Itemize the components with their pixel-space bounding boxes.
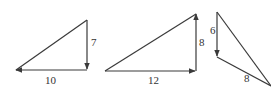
label-12: 12: [148, 74, 159, 86]
label-10: 10: [45, 74, 57, 86]
triangle-1: 7 10: [16, 20, 97, 86]
vector-triangles-diagram: 7 10 8 12 6 8: [0, 0, 271, 97]
hypotenuse-2: [105, 14, 196, 71]
label-6: 6: [210, 24, 216, 36]
label-8-diagonal: 8: [244, 72, 250, 84]
hypotenuse-1: [16, 20, 87, 70]
triangle-3: 6 8: [210, 12, 271, 86]
label-7: 7: [91, 36, 97, 48]
triangle-2: 8 12: [105, 14, 205, 86]
label-8: 8: [199, 36, 205, 48]
